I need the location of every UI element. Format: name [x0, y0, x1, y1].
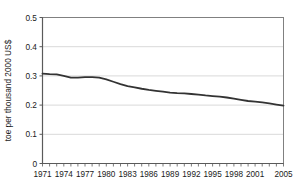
data-series-line: [43, 74, 284, 106]
y-tick-label: 0: [32, 159, 37, 169]
y-tick-label: 0.3: [25, 71, 37, 81]
x-tick-label: 1995: [203, 170, 222, 179]
plot-border: [43, 18, 284, 164]
x-tick-label: 1992: [182, 170, 201, 179]
y-tick-label: 0.4: [25, 42, 37, 52]
x-tick-label: 2005: [274, 170, 293, 179]
line-chart: 00.10.20.30.40.5197119741977198019831986…: [0, 0, 294, 191]
x-tick-label: 1986: [140, 170, 159, 179]
gridlines: [43, 47, 284, 135]
x-tick-label: 1983: [118, 170, 137, 179]
x-tick-label: 1998: [225, 170, 244, 179]
y-axis-ticks: 00.10.20.30.40.5: [25, 13, 42, 169]
x-tick-label: 1971: [33, 170, 52, 179]
x-tick-label: 1977: [76, 170, 95, 179]
x-tick-label: 2001: [246, 170, 265, 179]
y-tick-label: 0.2: [25, 100, 37, 110]
x-tick-label: 1989: [161, 170, 180, 179]
x-tick-label: 1980: [97, 170, 116, 179]
x-axis-ticks: 1971197419771980198319861989199219951998…: [33, 164, 293, 179]
x-tick-label: 1974: [55, 170, 74, 179]
chart-container: 00.10.20.30.40.5197119741977198019831986…: [0, 0, 294, 191]
y-tick-label: 0.5: [25, 13, 37, 23]
y-axis-title: toe per thousand 2000 US$: [3, 39, 13, 141]
y-tick-label: 0.1: [25, 129, 37, 139]
plot-frame: [43, 18, 284, 164]
